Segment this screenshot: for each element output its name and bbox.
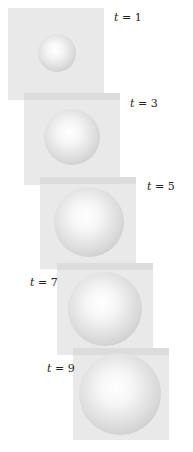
panel-band — [57, 263, 153, 270]
panel-band — [24, 93, 120, 100]
panel-t3 — [24, 93, 120, 185]
label-eq: = — [138, 97, 147, 110]
sphere-t5 — [54, 187, 124, 257]
panel-band — [40, 177, 136, 184]
label-val: 7 — [51, 276, 58, 289]
sphere-t9 — [79, 353, 161, 435]
label-var: t — [30, 276, 34, 289]
label-eq: = — [122, 11, 131, 24]
label-val: 9 — [68, 362, 75, 375]
label-var: t — [130, 97, 134, 110]
label-t1: t = 1 — [114, 11, 142, 24]
label-val: 3 — [151, 97, 158, 110]
sphere-t1 — [38, 34, 76, 72]
panel-t5 — [40, 177, 136, 269]
label-var: t — [114, 11, 118, 24]
sphere-t7 — [68, 272, 142, 346]
label-eq: = — [55, 362, 64, 375]
panel-t7 — [57, 263, 153, 355]
label-var: t — [47, 362, 51, 375]
label-t7: t = 7 — [30, 276, 58, 289]
label-eq: = — [155, 180, 164, 193]
sphere-t3 — [44, 109, 100, 165]
panel-t1 — [8, 8, 104, 100]
label-val: 5 — [168, 180, 175, 193]
label-eq: = — [38, 276, 47, 289]
label-t3: t = 3 — [130, 97, 158, 110]
panel-t9 — [73, 348, 169, 440]
label-t5: t = 5 — [147, 180, 175, 193]
label-val: 1 — [135, 11, 142, 24]
label-t9: t = 9 — [47, 362, 75, 375]
label-var: t — [147, 180, 151, 193]
